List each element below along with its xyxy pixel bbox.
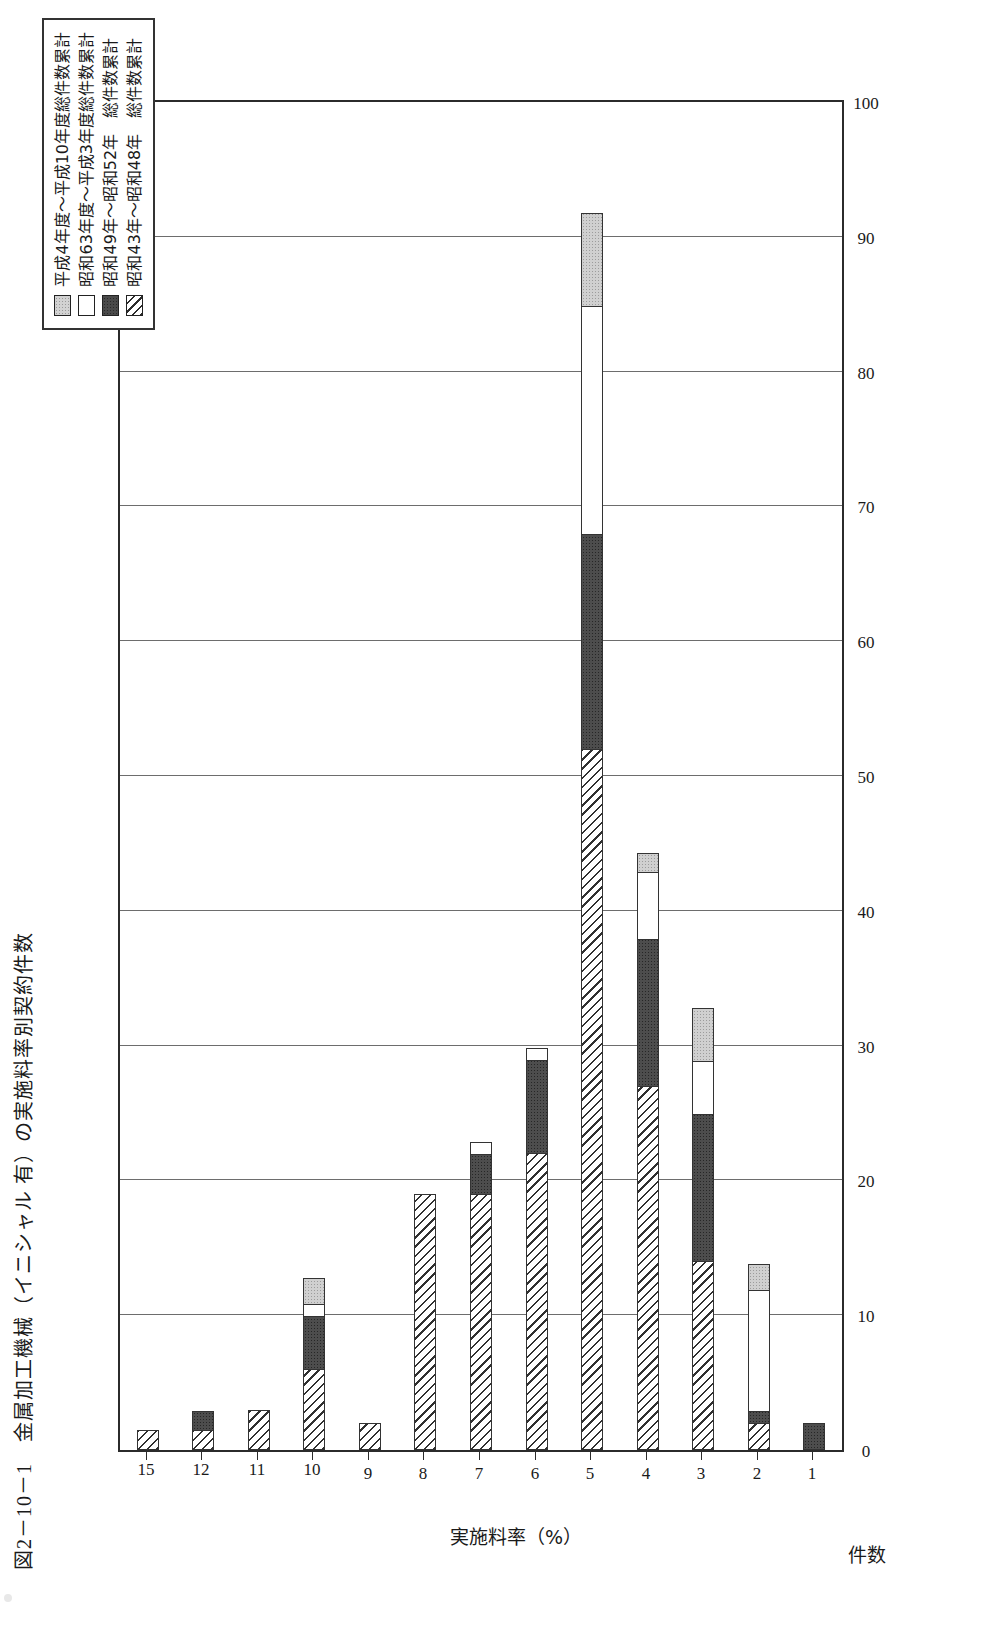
x-axis-tick-label: 3 <box>697 1464 706 1484</box>
bar-category-3 <box>692 1005 714 1450</box>
plot-area: 件数 実施料率（%） 01020304050607080901001234567… <box>118 70 918 1570</box>
bar-segment <box>470 1194 492 1450</box>
gridline <box>120 775 842 776</box>
y-axis-title: 件数 <box>848 1540 886 1567</box>
bar-segment <box>248 1410 270 1450</box>
bar-segment <box>692 1261 714 1450</box>
y-axis-tick-label: 100 <box>853 94 879 114</box>
legend-item-label: 昭和63年度～平成3年度総件数累計 <box>79 32 95 287</box>
y-axis-tick-label: 90 <box>858 229 875 249</box>
gridline <box>120 910 842 911</box>
bar-segment <box>748 1411 770 1424</box>
x-axis-tick-label: 7 <box>475 1464 484 1484</box>
bar-category-1 <box>803 1423 825 1450</box>
legend-item: 昭和43年～昭和48年 総件数累計 <box>126 32 143 316</box>
bar-segment <box>637 939 659 1087</box>
y-axis-tick-label: 60 <box>858 633 875 653</box>
legend-item-label: 平成4年度～平成10年度総件数累計 <box>55 32 71 287</box>
bar-category-15 <box>137 1430 159 1450</box>
axis-tick-mark <box>757 1452 758 1460</box>
bar-segment <box>637 1086 659 1450</box>
gridline <box>120 505 842 506</box>
x-axis-tick-label: 15 <box>137 1460 154 1480</box>
bar-category-9 <box>359 1423 381 1450</box>
bar-segment <box>692 1061 714 1115</box>
bar-segment <box>359 1423 381 1450</box>
bar-segment <box>526 1060 548 1154</box>
chart-legend: 平成4年度～平成10年度総件数累計昭和63年度～平成3年度総件数累計昭和49年～… <box>42 18 155 330</box>
x-axis-tick-label: 11 <box>249 1460 265 1480</box>
axis-tick-mark <box>479 1452 480 1460</box>
axis-tick-mark <box>535 1452 536 1460</box>
x-axis-tick-label: 6 <box>530 1464 539 1484</box>
bar-segment <box>581 534 603 750</box>
x-axis-tick-label: 8 <box>419 1464 428 1484</box>
gridline <box>120 371 842 372</box>
axis-tick-mark <box>201 1452 202 1460</box>
y-axis-tick-label: 80 <box>858 364 875 384</box>
bar-category-6 <box>526 1046 548 1450</box>
bar-segment <box>470 1142 492 1155</box>
x-axis-tick-label: 1 <box>808 1464 817 1484</box>
legend-item: 昭和63年度～平成3年度総件数累計 <box>78 32 95 316</box>
axis-tick-mark <box>257 1452 258 1460</box>
bar-category-12 <box>192 1410 214 1450</box>
legend-swatch-light-gray-dotted-icon <box>54 295 71 316</box>
x-axis-tick-label: 2 <box>752 1464 761 1484</box>
bar-segment <box>692 1008 714 1062</box>
legend-swatch-dark-gray-dotted-icon <box>102 295 119 316</box>
x-axis-tick-label: 12 <box>193 1460 210 1480</box>
gridline <box>120 236 842 237</box>
bar-segment <box>748 1290 770 1411</box>
bar-segment <box>137 1430 159 1450</box>
bar-segment <box>526 1048 548 1061</box>
bar-segment <box>526 1153 548 1450</box>
bar-category-11 <box>248 1410 270 1450</box>
y-axis-tick-label: 50 <box>858 768 875 788</box>
bar-segment <box>748 1423 770 1450</box>
legend-swatch-white-icon <box>78 295 95 316</box>
axis-tick-mark <box>701 1452 702 1460</box>
legend-item-label: 昭和49年～昭和52年 総件数累計 <box>103 38 119 287</box>
bar-segment <box>637 872 659 939</box>
x-axis-tick-label: 10 <box>304 1460 321 1480</box>
axis-tick-mark <box>646 1452 647 1460</box>
axis-tick-mark <box>368 1452 369 1460</box>
bar-segment <box>192 1430 214 1450</box>
plot-frame <box>118 100 844 1452</box>
x-axis-title: 実施料率（%） <box>450 1522 582 1549</box>
axis-tick-mark <box>590 1452 591 1460</box>
y-axis-tick-label: 30 <box>858 1038 875 1058</box>
legend-item-label: 昭和43年～昭和48年 総件数累計 <box>127 38 143 287</box>
y-axis-tick-label: 20 <box>858 1172 875 1192</box>
bar-segment <box>303 1316 325 1370</box>
bar-category-10 <box>303 1275 325 1450</box>
bar-segment <box>748 1264 770 1291</box>
gridline <box>120 1045 842 1046</box>
x-axis-tick-label: 4 <box>641 1464 650 1484</box>
figure-caption: 図2－10－1 金属加工機械（イニシャル 有）の実施料率別契約件数 <box>8 932 37 1570</box>
axis-tick-mark <box>146 1452 147 1460</box>
bar-category-4 <box>637 850 659 1450</box>
bar-segment <box>303 1278 325 1305</box>
axis-tick-mark <box>423 1452 424 1460</box>
bar-category-7 <box>470 1140 492 1450</box>
bar-segment <box>303 1369 325 1450</box>
legend-item: 昭和49年～昭和52年 総件数累計 <box>102 32 119 316</box>
bar-segment <box>581 749 603 1450</box>
bar-category-2 <box>748 1261 770 1450</box>
x-axis-tick-label: 9 <box>364 1464 373 1484</box>
legend-item: 平成4年度～平成10年度総件数累計 <box>54 32 71 316</box>
legend-swatch-diagonal-hatch-icon <box>126 295 143 316</box>
axis-tick-mark <box>812 1452 813 1460</box>
gridline <box>120 640 842 641</box>
y-axis-tick-label: 0 <box>862 1442 871 1462</box>
y-axis-tick-label: 40 <box>858 903 875 923</box>
bar-category-5 <box>581 210 603 1450</box>
axis-tick-mark <box>312 1452 313 1460</box>
bar-segment <box>303 1304 325 1317</box>
bar-segment <box>637 853 659 873</box>
y-axis-tick-label: 10 <box>858 1307 875 1327</box>
y-axis-tick-label: 70 <box>858 498 875 518</box>
bar-segment <box>692 1114 714 1262</box>
